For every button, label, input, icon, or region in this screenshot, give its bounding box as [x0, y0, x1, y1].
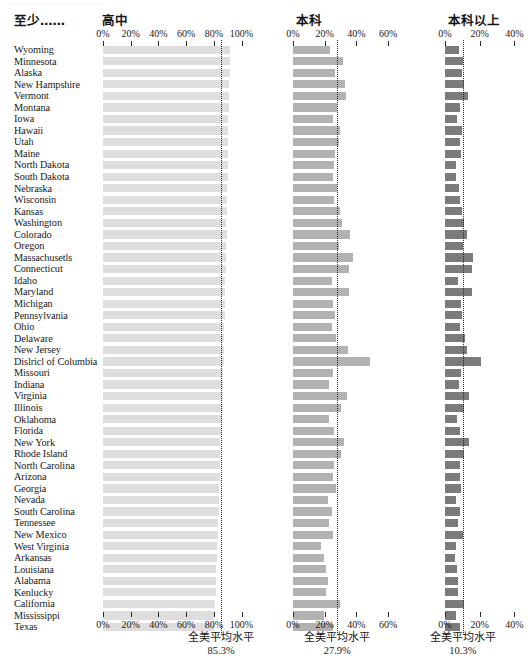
- bar: [103, 334, 224, 342]
- chart-row: [293, 448, 404, 460]
- chart-row: [293, 102, 404, 114]
- chart-row: [445, 67, 523, 79]
- chart-row: [445, 183, 523, 195]
- bar: [293, 173, 333, 181]
- bar: [103, 346, 224, 354]
- chart-row: [445, 587, 523, 599]
- chart-row: [445, 367, 523, 379]
- axis-tick-mark: [293, 612, 294, 617]
- panel1-average-value: 85.3%: [161, 644, 281, 657]
- panel3-bottom-axis: 0%20%40%: [445, 612, 523, 618]
- bar: [293, 427, 334, 435]
- chart-row: [445, 379, 523, 391]
- bar: [103, 242, 226, 250]
- bar: [103, 57, 230, 65]
- axis-tick-label: 40%: [149, 619, 167, 630]
- panel1-title: 高中: [102, 10, 128, 29]
- bar: [445, 184, 459, 192]
- bar: [445, 253, 473, 261]
- bar: [445, 80, 464, 88]
- bar: [103, 600, 215, 608]
- bar: [293, 415, 329, 423]
- chart-row: [293, 541, 404, 553]
- chart-row: [445, 240, 523, 252]
- bar: [445, 242, 463, 250]
- bar: [445, 519, 458, 527]
- chart-row: [445, 541, 523, 553]
- average-reference-line: [221, 40, 222, 635]
- chart-row: [293, 263, 404, 275]
- axis-tick-mark: [186, 612, 187, 617]
- bar: [293, 392, 347, 400]
- bar: [103, 392, 223, 400]
- bar: [103, 230, 227, 238]
- chart-row: [293, 217, 404, 229]
- bar: [103, 531, 218, 539]
- bar: [103, 323, 224, 331]
- bar: [293, 196, 334, 204]
- bar: [103, 253, 226, 261]
- bar: [445, 161, 456, 169]
- chart-row: [445, 460, 523, 472]
- axis-tick-label: 20%: [316, 28, 334, 39]
- bar: [103, 277, 225, 285]
- bar: [445, 369, 461, 377]
- bar: [445, 380, 459, 388]
- axis-tick-label: 0%: [438, 28, 451, 39]
- chart-row: [293, 298, 404, 310]
- chart-row: [293, 240, 404, 252]
- bar: [293, 334, 336, 342]
- chart-row: [445, 575, 523, 587]
- bar: [103, 219, 226, 227]
- bar: [293, 311, 335, 319]
- bar: [103, 542, 217, 550]
- chart-row: [293, 414, 404, 426]
- axis-tick-label: 20%: [122, 619, 140, 630]
- bar: [293, 219, 342, 227]
- bar: [445, 219, 464, 227]
- axis-tick-mark: [158, 612, 159, 617]
- bar: [445, 577, 458, 585]
- chart-row: [445, 79, 523, 91]
- chart-row: [445, 529, 523, 541]
- chart-row: [445, 483, 523, 495]
- chart-row: [293, 56, 404, 68]
- bar: [103, 126, 228, 134]
- axis-tick-label: 80%: [205, 28, 223, 39]
- bar: [445, 554, 455, 562]
- chart-row: [445, 102, 523, 114]
- axis-tick-label: 60%: [177, 619, 195, 630]
- bar: [293, 357, 370, 365]
- chart-row: [445, 298, 523, 310]
- bar: [293, 323, 332, 331]
- chart-row: [293, 310, 404, 322]
- bar: [103, 288, 225, 296]
- bar: [445, 565, 457, 573]
- chart-row: [445, 321, 523, 333]
- chart-row: [445, 148, 523, 160]
- axis-tick-mark: [103, 612, 104, 617]
- bar: [293, 380, 329, 388]
- bar: [293, 438, 344, 446]
- axis-tick-mark: [131, 612, 132, 617]
- axis-tick-mark: [242, 612, 243, 617]
- chart-row: [293, 333, 404, 345]
- bar: [445, 288, 472, 296]
- bar: [445, 461, 460, 469]
- chart-row: [293, 598, 404, 610]
- bar: [293, 450, 341, 458]
- bar: [445, 69, 462, 77]
- chart-row: [445, 471, 523, 483]
- bar: [103, 404, 223, 412]
- chart-row: [445, 44, 523, 56]
- bar: [293, 346, 348, 354]
- chart-row: [293, 483, 404, 495]
- bar: [293, 484, 336, 492]
- chart-row: [293, 183, 404, 195]
- chart-row: [293, 529, 404, 541]
- chart-row: [445, 517, 523, 529]
- panel2-title: 本科: [296, 10, 322, 29]
- bar: [445, 438, 469, 446]
- chart-row: [445, 113, 523, 125]
- bar: [103, 461, 220, 469]
